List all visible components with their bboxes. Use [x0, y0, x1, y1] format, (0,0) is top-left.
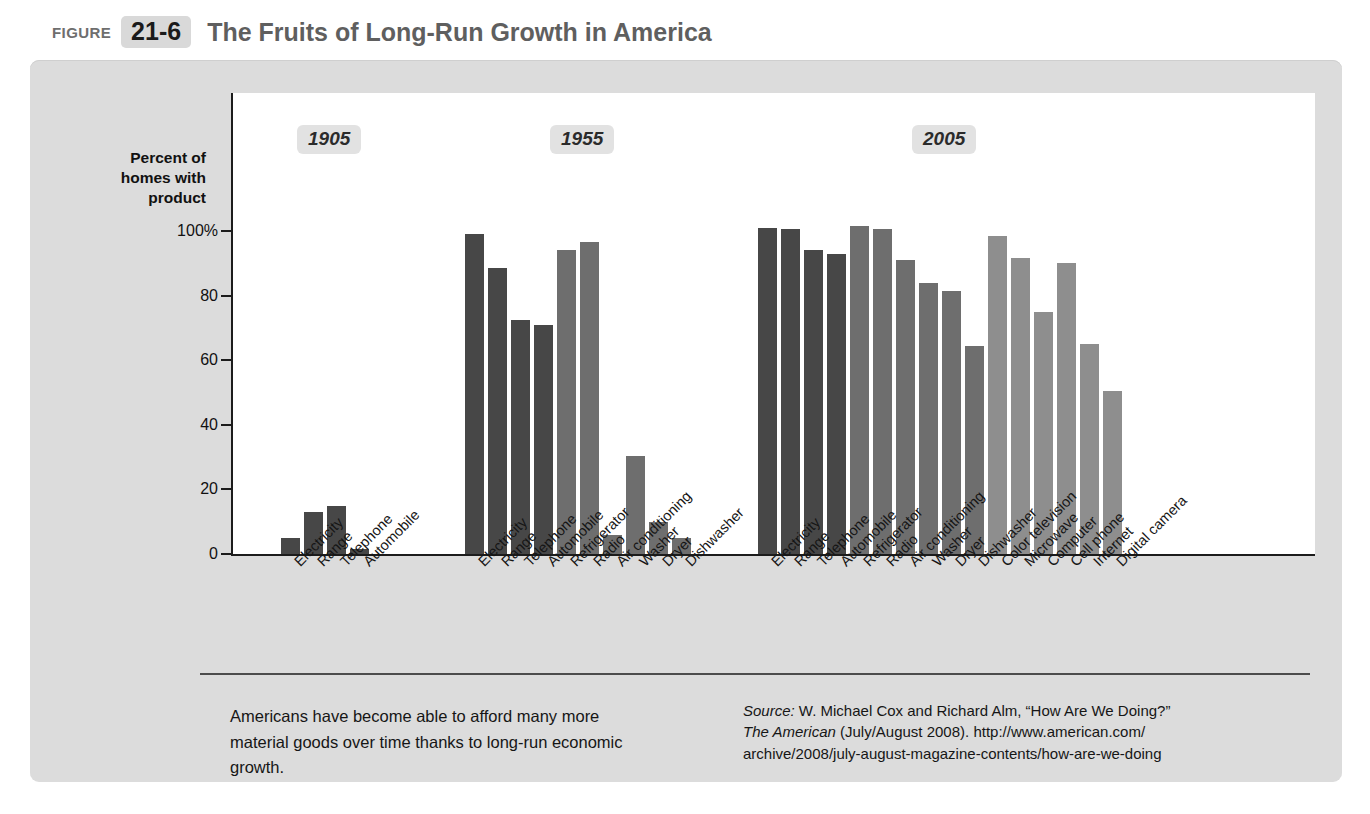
y-axis-title: Percent of homes with product — [88, 148, 206, 207]
figure-number: 21-6 — [121, 16, 191, 47]
bar-1955-refrigerator — [557, 250, 576, 554]
bar-2005-automobile — [827, 254, 846, 554]
plot-area: 100%806040200 190519552005 — [198, 93, 1315, 556]
y-tick-40 — [221, 424, 233, 426]
bar-1955-range — [488, 268, 507, 554]
y-tick-label-40: 40 — [200, 416, 218, 434]
source-line-2: (July/August 2008). http://www.american.… — [836, 723, 1145, 740]
bar-2005-dishwasher — [965, 346, 984, 554]
y-tick-label-100: 100% — [177, 222, 218, 240]
figure-source: Source: W. Michael Cox and Richard Alm, … — [743, 700, 1283, 764]
figure-panel: Percent of homes with product 100%806040… — [30, 60, 1342, 782]
y-axis-title-line-3: product — [88, 188, 206, 208]
y-tick-60 — [221, 359, 233, 361]
bar-2005-refrigerator — [850, 226, 869, 554]
year-badge-2005: 2005 — [912, 125, 976, 154]
y-tick-label-20: 20 — [200, 480, 218, 498]
figure-caption: Americans have become able to afford man… — [230, 704, 635, 781]
source-prefix: Source: — [743, 702, 795, 719]
bar-1955-electricity — [465, 234, 484, 554]
y-tick-100 — [221, 230, 233, 232]
bar-1955-automobile — [534, 325, 553, 554]
year-badge-1905: 1905 — [297, 125, 361, 154]
y-tick-0 — [221, 553, 233, 555]
bar-2005-electricity — [758, 228, 777, 554]
source-line-3: archive/2008/july-august-magazine-conten… — [743, 745, 1162, 762]
bar-2005-range — [781, 229, 800, 554]
y-tick-label-60: 60 — [200, 351, 218, 369]
y-axis-title-line-2: homes with — [88, 168, 206, 188]
bar-series — [233, 93, 1315, 554]
y-tick-80 — [221, 295, 233, 297]
x-axis-labels: ElectricityRangeTelephoneAutomobileElect… — [198, 556, 1348, 696]
bar-2005-radio — [873, 229, 892, 554]
bar-2005-color-television — [988, 236, 1007, 554]
y-tick-label-80: 80 — [200, 287, 218, 305]
source-line-1: W. Michael Cox and Richard Alm, “How Are… — [795, 702, 1171, 719]
figure-page: FIGURE 21-6 The Fruits of Long-Run Growt… — [0, 0, 1370, 814]
figure-header: FIGURE 21-6 The Fruits of Long-Run Growt… — [52, 14, 712, 50]
footer-divider — [200, 673, 1310, 675]
source-publication: The American — [743, 723, 836, 740]
y-axis-title-line-1: Percent of — [88, 148, 206, 168]
year-badge-1955: 1955 — [550, 125, 614, 154]
page-title: The Fruits of Long-Run Growth in America — [207, 19, 712, 45]
figure-label: FIGURE — [52, 24, 111, 41]
y-tick-20 — [221, 488, 233, 490]
bar-2005-telephone — [804, 250, 823, 554]
